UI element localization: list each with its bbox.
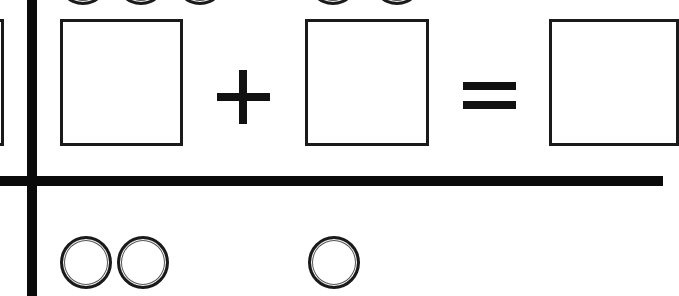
vertical-divider [27,0,37,296]
bottom-counter-circle-1 [60,236,112,289]
addend-1-box[interactable] [60,19,183,146]
plus-sign-icon [217,70,270,124]
bottom-counter-circle-3 [308,236,360,289]
top-counter-circle-4 [307,0,359,5]
top-counter-circle-1 [57,0,109,5]
top-counter-circle-3 [174,0,226,5]
horizontal-divider [0,176,663,186]
equals-sign-icon [463,82,516,109]
previous-answer-box[interactable] [0,19,4,146]
addend-2-box[interactable] [305,19,429,146]
top-counter-circle-5 [371,0,423,5]
sum-box[interactable] [549,19,679,146]
bottom-counter-circle-2 [117,236,169,289]
top-counter-circle-2 [115,0,167,5]
